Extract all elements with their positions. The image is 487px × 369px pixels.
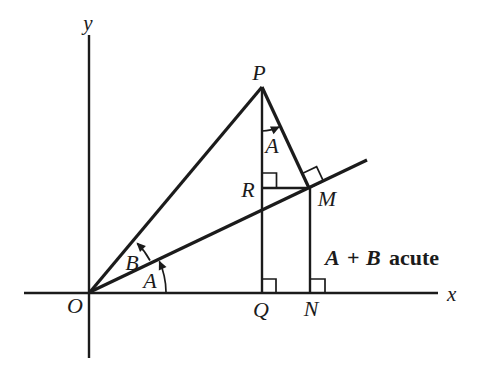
annotation-plus: +: [347, 245, 360, 270]
right-angle-at-R: [262, 173, 277, 188]
point-label-N: N: [303, 296, 320, 321]
right-angle-at-N: [310, 279, 325, 293]
angle-arc-A-origin: [159, 262, 166, 293]
annotation-B: B: [365, 245, 381, 270]
angle-label-A-at-P: A: [263, 133, 279, 158]
textbook-figure: y x O P Q R M N B A A A+Bacute: [0, 0, 487, 369]
point-label-O: O: [67, 293, 83, 318]
angle-arc-B-origin: [137, 243, 150, 260]
annotation-A: A: [323, 245, 340, 270]
angle-arc-A-at-P: [262, 127, 279, 131]
right-angle-at-Q: [262, 279, 276, 293]
angle-label-A-origin: A: [141, 268, 157, 293]
point-label-M: M: [317, 186, 338, 211]
x-axis-label: x: [446, 282, 457, 306]
annotation-suffix: acute: [389, 245, 439, 270]
ray-OP: [90, 87, 262, 292]
point-label-P: P: [251, 60, 265, 85]
y-axis-label: y: [81, 11, 93, 35]
point-label-R: R: [240, 177, 255, 202]
point-label-Q: Q: [253, 297, 269, 322]
annotation-a-plus-b-acute: A+Bacute: [323, 245, 439, 270]
geometry-diagram: y x O P Q R M N B A A A+Bacute: [0, 0, 487, 369]
angle-label-B-origin: B: [125, 250, 138, 275]
